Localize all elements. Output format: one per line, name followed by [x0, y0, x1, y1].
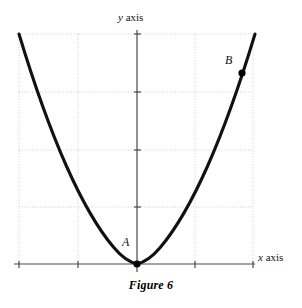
y-axis-label-word: axis	[126, 11, 144, 23]
x-axis-label-variable: x	[258, 251, 263, 263]
figure-container: y axis x axis A B Figure 6	[0, 0, 302, 308]
y-axis-label-variable: y	[118, 11, 123, 23]
figure-caption: Figure 6	[0, 279, 302, 291]
point-a-marker	[133, 260, 140, 267]
point-a-label: A	[122, 236, 129, 248]
vertical-gridlines	[19, 34, 253, 264]
horizontal-gridlines	[19, 34, 253, 207]
point-b-label: B	[225, 54, 232, 66]
y-axis-label: y axis	[118, 12, 143, 23]
point-b-marker	[238, 69, 245, 76]
parabola-plot	[0, 0, 302, 308]
x-axis-label-word: axis	[266, 251, 284, 263]
x-axis-label: x axis	[258, 252, 283, 263]
